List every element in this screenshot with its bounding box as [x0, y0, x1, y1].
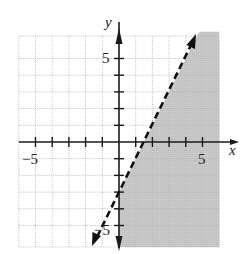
x-tick-label-5: 5 [198, 151, 206, 167]
x-axis-label: x [228, 142, 236, 158]
x-tick-label-neg5: −5 [22, 151, 38, 167]
y-tick-label-5: 5 [102, 50, 110, 66]
y-tick-label-neg5: −5 [94, 222, 110, 238]
coordinate-plane-graph: x y −5 5 5 −5 [0, 0, 247, 254]
y-axis-label: y [103, 14, 112, 30]
